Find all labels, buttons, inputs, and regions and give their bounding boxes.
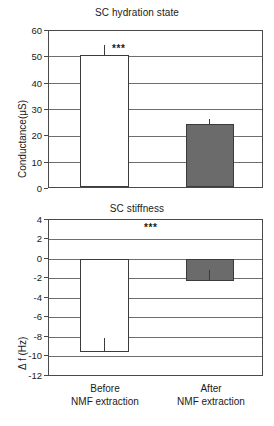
significance-mark-stiffness: *** — [144, 224, 157, 232]
chart-panel-hydration: SC hydration state Conductance(μS) 60 50… — [0, 0, 274, 200]
y-tick-label-neg6: -6 — [0, 312, 42, 322]
bar-after-hydration[interactable] — [186, 124, 234, 187]
error-bar-before-hydration — [104, 45, 105, 56]
x-category-before-line2: NMF extraction — [55, 396, 155, 409]
y-tick-label-2: 2 — [0, 234, 42, 244]
error-bar-after-stiffness — [209, 270, 210, 281]
chart-title-hydration: SC hydration state — [0, 7, 274, 18]
chart-panel-stiffness: SC stiffness Δ f (Hz) 4 2 0 -2 -4 -6 -8 … — [0, 200, 274, 426]
x-category-after-line2: NMF extraction — [161, 396, 261, 409]
x-category-label-after: After NMF extraction — [161, 383, 261, 408]
y-tick-label-neg4: -4 — [0, 293, 42, 303]
plot-area-stiffness — [48, 219, 263, 376]
bar-after-stiffness[interactable] — [186, 259, 234, 281]
y-tick-mark-0 — [44, 188, 48, 189]
error-bar-after-hydration — [209, 119, 210, 125]
y-tick-label-20: 20 — [0, 131, 42, 141]
y-tick-label-0: 0 — [0, 184, 42, 194]
y-tick-label-zero: 0 — [0, 254, 42, 264]
gridline-2 — [49, 239, 262, 240]
y-tick-label-50: 50 — [0, 52, 42, 62]
y-tick-label-neg12: -12 — [0, 371, 42, 381]
x-category-before-line1: Before — [55, 383, 155, 396]
y-tick-label-neg2: -2 — [0, 273, 42, 283]
significance-mark-hydration: *** — [112, 45, 125, 53]
plot-area-hydration — [48, 30, 263, 188]
x-category-after-line1: After — [161, 383, 261, 396]
y-tick-label-10: 10 — [0, 158, 42, 168]
bar-before-hydration[interactable] — [80, 55, 129, 187]
error-bar-before-stiffness — [104, 338, 105, 352]
figure-container: SC hydration state Conductance(μS) 60 50… — [0, 0, 274, 426]
y-tick-label-60: 60 — [0, 26, 42, 36]
chart-title-stiffness: SC stiffness — [0, 203, 274, 214]
x-category-label-before: Before NMF extraction — [55, 383, 155, 408]
y-tick-label-neg8: -8 — [0, 332, 42, 342]
y-tick-label-30: 30 — [0, 105, 42, 115]
gridline-neg10 — [49, 356, 262, 357]
y-tick-label-4: 4 — [0, 215, 42, 225]
y-tick-label-40: 40 — [0, 79, 42, 89]
y-tick-label-neg10: -10 — [0, 351, 42, 361]
